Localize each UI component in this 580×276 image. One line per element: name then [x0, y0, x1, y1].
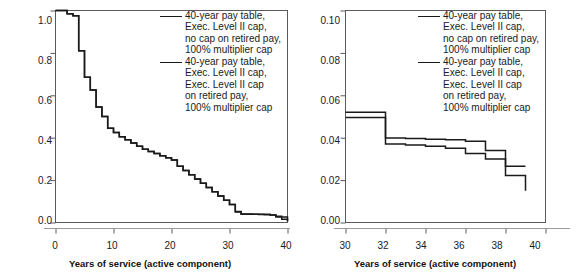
legend-label-1-line-3: no cap on retired pay,	[443, 33, 539, 44]
legend-label-1-line-1: 40-year pay table,	[443, 10, 539, 21]
chart-panel-right: 0.10 0.08 0.06 0.04 0.02 0.00 30 32 34 3…	[290, 0, 580, 276]
x-tick-label: 34	[408, 240, 434, 251]
y-tick-label: 0.00	[294, 215, 340, 226]
legend-label-1-line-2: Exec. Level II cap,	[443, 21, 539, 32]
chart-panel-left: Cumulative retention rate 1.0 0.8 0.6 0.…	[0, 0, 290, 276]
x-tick-label: 36	[446, 240, 472, 251]
legend-label-2: 40-year pay table, Exec. Level II cap, E…	[443, 56, 530, 113]
legend-label-1: 40-year pay table, Exec. Level II cap, n…	[443, 10, 539, 56]
series-paths-right	[346, 112, 526, 190]
legend-label-2-line-3: Exec. Level II cap	[185, 79, 272, 90]
legend-label-2-line-2: Exec. Level II cap,	[185, 67, 272, 78]
x-tick-label: 10	[99, 240, 125, 251]
x-tick-label: 32	[370, 240, 396, 251]
x-ticks-right	[346, 229, 546, 234]
y-tick-label: 0.10	[294, 15, 340, 26]
series-line-1	[346, 118, 526, 191]
legend-swatch-line-2	[160, 62, 182, 63]
y-tick-label: 0.8	[16, 55, 52, 66]
x-tick-label: 38	[484, 240, 510, 251]
y-tick-label: 0.04	[294, 135, 340, 146]
legend-swatch-line-1	[160, 16, 182, 17]
figure-two-panel-retention-chart: Cumulative retention rate 1.0 0.8 0.6 0.…	[0, 0, 580, 276]
y-tick-label: 0.6	[16, 95, 52, 106]
y-tick-label: 0.2	[16, 175, 52, 186]
x-tick-label: 30	[215, 240, 241, 251]
legend-label-2-line-1: 40-year pay table,	[185, 56, 272, 67]
x-axis-title-right: Years of service (active component)	[315, 258, 555, 269]
legend-swatch-line-2	[418, 62, 440, 63]
legend-label-1-line-3: no cap on retired pay,	[185, 33, 281, 44]
legend-label-2-line-1: 40-year pay table,	[443, 56, 530, 67]
legend-label-2-line-4: on retired pay,	[443, 90, 530, 101]
y-tick-label: 0.08	[294, 55, 340, 66]
legend-label-1-line-2: Exec. Level II cap,	[185, 21, 281, 32]
y-ticks-right	[341, 11, 346, 223]
legend-label-2-line-2: Exec. Level II cap,	[443, 67, 530, 78]
legend-label-2-line-5: 100% multiplier cap	[185, 102, 272, 113]
y-ticks-left	[51, 11, 56, 223]
y-tick-label: 0.06	[294, 95, 340, 106]
legend-label-1-line-4: 100% multiplier cap	[185, 44, 281, 55]
x-tick-label: 0	[42, 240, 68, 251]
y-tick-label: 1.0	[16, 15, 52, 26]
legend-label-2-line-5: 100% multiplier cap	[443, 102, 530, 113]
legend-label-1-line-4: 100% multiplier cap	[443, 44, 539, 55]
y-tick-label: 0.0	[16, 215, 52, 226]
x-ticks-left	[56, 229, 288, 234]
legend-swatch-line-1	[418, 16, 440, 17]
legend-label-2-line-3: Exec. Level II cap	[443, 79, 530, 90]
x-axis-title-left: Years of service (active component)	[30, 258, 270, 269]
x-tick-label: 30	[332, 240, 358, 251]
legend-label-1: 40-year pay table, Exec. Level II cap, n…	[185, 10, 281, 56]
y-tick-label: 0.4	[16, 135, 52, 146]
x-tick-label: 40	[522, 240, 548, 251]
legend-label-2-line-4: on retired pay,	[185, 90, 272, 101]
x-tick-label: 20	[157, 240, 183, 251]
legend-label-2: 40-year pay table, Exec. Level II cap, E…	[185, 56, 272, 113]
y-tick-label: 0.02	[294, 175, 340, 186]
legend-label-1-line-1: 40-year pay table,	[185, 10, 281, 21]
